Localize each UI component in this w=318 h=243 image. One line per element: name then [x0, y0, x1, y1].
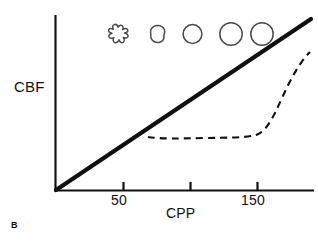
- x-axis-label: CPP: [166, 206, 195, 220]
- x-tick-marks: [124, 182, 258, 190]
- cbf-cpp-plot: [0, 0, 318, 243]
- panel-letter: B: [11, 221, 18, 230]
- figure-panel-b: CBF CPP 50 150 B: [0, 0, 318, 243]
- vessel-caliber-icons: [109, 23, 274, 45]
- autoregulation-curve: [148, 52, 310, 138]
- vessel-irregular-icon: [151, 26, 165, 43]
- y-axis-label: CBF: [14, 79, 45, 94]
- vessel-round-small-icon: [183, 25, 202, 44]
- vessel-round-largest-icon: [251, 23, 273, 45]
- vessel-round-large-icon: [220, 23, 242, 45]
- passive-pressure-flow-line: [56, 19, 311, 190]
- vessel-crenated-icon: [109, 24, 129, 42]
- x-tick-label-50: 50: [111, 193, 127, 207]
- x-tick-label-150: 150: [241, 193, 265, 207]
